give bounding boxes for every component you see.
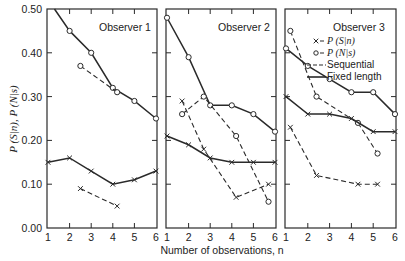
y-tick-label: 0.40 [22,47,43,59]
x-tick-label: 1 [45,231,51,243]
panel-title: Observer 1 [99,21,151,33]
panel-frame [47,9,157,228]
circle-marker-icon [251,112,256,117]
circle-marker-icon [164,15,169,20]
x-marker-icon [288,125,293,130]
x-marker-icon [314,39,319,44]
x-tick-label: 3 [207,231,213,243]
y-axis-label: P (S|n), P (N|s) [7,85,20,154]
series-line [167,136,275,162]
legend-label: P (N|s) [326,47,356,59]
legend-label: Sequential [327,59,374,70]
legend-label: Fixed length [327,71,381,82]
circle-marker-icon [375,151,380,156]
circle-marker-icon [305,63,310,68]
circle-marker-icon [67,28,72,33]
y-tick-label: 0.10 [22,178,43,190]
panel-observer-1: 123456Observer 1 [45,9,159,243]
x-marker-icon [115,204,120,209]
x-marker-icon [266,182,271,187]
y-axis-ticks: 0.000.100.200.300.400.50 [22,3,43,234]
x-tick-label: 1 [164,231,170,243]
circle-marker-icon [201,94,206,99]
x-tick-label: 5 [370,231,376,243]
series-line [48,158,156,184]
x-tick-label: 5 [250,231,256,243]
x-marker-icon [78,186,83,191]
x-tick-label: 2 [305,231,311,243]
x-tick-label: 4 [348,231,354,243]
circle-marker-icon [272,129,277,134]
x-marker-icon [180,99,185,104]
x-tick-label: 5 [131,231,137,243]
circle-marker-icon [234,133,239,138]
circle-marker-icon [229,103,234,108]
circle-marker-icon [314,51,318,55]
series-line [290,127,377,184]
x-tick-label: 3 [327,231,333,243]
series-line [80,189,117,207]
legend-entry: P (S|n) [314,35,356,47]
x-tick-label: 3 [88,231,94,243]
circle-marker-icon [288,28,293,33]
circle-marker-icon [78,63,83,68]
circle-marker-icon [266,199,271,204]
circle-marker-icon [371,90,376,95]
x-marker-icon [201,147,206,152]
x-tick-label: 1 [283,231,289,243]
y-tick-label: 0.50 [22,3,43,15]
legend-entry: Sequential [307,59,374,70]
circle-marker-icon [89,50,94,55]
panel-title: Observer 2 [218,21,270,33]
x-tick-label: 2 [67,231,73,243]
circle-marker-icon [392,112,397,117]
circle-marker-icon [180,112,185,117]
legend-entry: P (N|s) [314,47,356,59]
circle-marker-icon [153,116,158,121]
x-tick-label: 2 [186,231,192,243]
x-tick-label: 6 [392,231,398,243]
circle-marker-icon [314,94,319,99]
y-tick-label: 0.00 [22,222,43,234]
circle-marker-icon [132,98,137,103]
y-tick-label: 0.20 [22,134,43,146]
chart-container: P (S|n), P (N|s) Number of observations,… [0,0,405,261]
x-tick-label: 6 [272,231,278,243]
circle-marker-icon [283,46,288,51]
y-tick-label: 0.30 [22,91,43,103]
legend-label: P (S|n) [326,35,356,47]
circle-marker-icon [186,55,191,60]
panel-observer-2: 123456Observer 2 [164,9,278,243]
circle-marker-icon [115,90,120,95]
x-axis-label: Number of observations, n [160,244,283,256]
x-tick-label: 4 [229,231,235,243]
series-line [286,97,395,132]
x-tick-label: 6 [153,231,159,243]
observer-probability-chart: P (S|n), P (N|s) Number of observations,… [0,0,405,261]
x-marker-icon [234,195,239,200]
circle-marker-icon [349,90,354,95]
x-marker-icon [89,169,94,174]
x-tick-label: 4 [110,231,116,243]
legend: P (S|n)P (N|s)SequentialFixed length [307,35,381,82]
panel-title: Observer 3 [333,21,385,33]
